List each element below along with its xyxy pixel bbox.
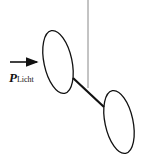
momentum-subscript: Licht (17, 75, 34, 84)
left-vane-disk (38, 28, 79, 96)
momentum-symbol: P (9, 70, 17, 85)
light-momentum-label: PLicht (9, 68, 34, 86)
right-vane-disk (99, 88, 140, 156)
